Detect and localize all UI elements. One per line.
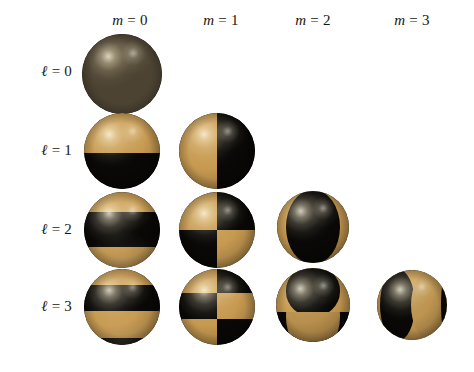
row-header-l2-relation: =: [52, 221, 61, 237]
lune-black-center: [286, 191, 339, 263]
column-header-m1: m = 1: [203, 12, 238, 29]
lune-black-east: [217, 113, 255, 189]
hemisphere-north: [276, 268, 350, 314]
row-header-l3-value: 3: [64, 298, 72, 314]
lobe-black-mid: [84, 212, 160, 248]
column-header-m3-symbol: m: [394, 12, 405, 28]
row-header-l1-relation: =: [52, 142, 61, 158]
column-header-m1-symbol: m: [203, 12, 214, 28]
column-header-m1-relation: =: [218, 12, 227, 28]
column-header-m0-relation: =: [127, 12, 136, 28]
column-header-m2-symbol: m: [295, 12, 306, 28]
row-header-l0: ℓ = 0: [41, 62, 72, 80]
column-header-m2: m = 2: [295, 12, 330, 29]
sphere-l1-m1-paint: [179, 113, 255, 189]
row-header-l1-symbol: ℓ: [41, 141, 47, 159]
sphere-l3-m3-paint: [377, 270, 447, 340]
sphere-l0-m0: [82, 34, 162, 114]
sphere-l2-m0: [84, 192, 160, 268]
spherical-harmonics-figure: m = 0 m = 1 m = 2 m = 3 ℓ = 0 ℓ = 1 ℓ = …: [0, 0, 474, 372]
sphere-l0-m0-paint: [82, 34, 162, 114]
column-header-m0-symbol: m: [112, 12, 123, 28]
lune-black-center-north: [286, 268, 341, 314]
lobe-gold-north: [84, 269, 160, 286]
row-header-l0-symbol: ℓ: [41, 62, 47, 80]
cell-gold-se: [217, 230, 255, 268]
sphere-l2-m1-paint: [179, 192, 255, 268]
sphere-l3-m2: [276, 268, 350, 342]
row-header-l2-value: 2: [64, 221, 72, 237]
lobe-black-south: [84, 338, 160, 345]
row-header-l3-relation: =: [52, 298, 61, 314]
lune-black-far-east: [441, 274, 447, 336]
lune-gold-west: [179, 113, 219, 189]
sphere-l1-m1: [179, 113, 255, 189]
lobe-black-south: [84, 153, 160, 189]
cell-gold-nw: [179, 269, 219, 294]
row-header-l0-value: 0: [64, 63, 72, 79]
cell-gold-sw: [179, 319, 219, 345]
sphere-l2-m1: [179, 192, 255, 268]
sphere-l3-m0: [84, 269, 160, 345]
column-header-m1-value: 1: [231, 12, 239, 28]
cell-black-ne: [217, 269, 255, 294]
row-header-l2-symbol: ℓ: [41, 220, 47, 238]
sphere-l2-m2-paint: [277, 191, 349, 263]
hemisphere-south: [276, 312, 350, 342]
column-header-m0-value: 0: [140, 12, 148, 28]
row-header-l0-relation: =: [52, 63, 61, 79]
sphere-l3-m0-paint: [84, 269, 160, 345]
sphere-l3-m1-paint: [179, 269, 255, 345]
sphere-l3-m3: [377, 270, 447, 340]
sphere-l1-m0-paint: [84, 113, 160, 189]
cell-black-mw: [179, 293, 219, 320]
column-header-m3: m = 3: [394, 12, 429, 29]
lobe-gold-north: [84, 113, 160, 153]
column-header-m3-relation: =: [409, 12, 418, 28]
column-header-m2-value: 2: [323, 12, 331, 28]
lune-gold-center-south: [286, 312, 341, 342]
lobe-gold-south: [84, 247, 160, 268]
lobe-gold-north: [84, 192, 160, 213]
row-header-l3-symbol: ℓ: [41, 297, 47, 315]
lobe-bronze: [82, 34, 162, 114]
sphere-l1-m0: [84, 113, 160, 189]
column-header-m0: m = 0: [112, 12, 147, 29]
cell-black-ne: [217, 192, 255, 232]
lobe-black-upper: [84, 285, 160, 312]
sphere-l3-m2-paint: [276, 268, 350, 342]
cell-black-sw: [179, 230, 219, 268]
lobe-gold-lower: [84, 311, 160, 339]
row-header-l2: ℓ = 2: [41, 220, 72, 238]
row-header-l1: ℓ = 1: [41, 141, 72, 159]
row-header-l1-value: 1: [64, 142, 72, 158]
column-header-m3-value: 3: [422, 12, 430, 28]
row-header-l3: ℓ = 3: [41, 297, 72, 315]
sphere-l3-m1: [179, 269, 255, 345]
lune-black-west: [380, 270, 415, 340]
cell-gold-me: [217, 293, 255, 320]
cell-gold-nw: [179, 192, 219, 232]
sphere-l2-m0-paint: [84, 192, 160, 268]
sphere-l2-m2: [277, 191, 349, 263]
cell-black-se: [217, 319, 255, 345]
column-header-m2-relation: =: [310, 12, 319, 28]
